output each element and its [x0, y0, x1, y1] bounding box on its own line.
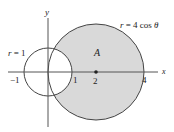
tick-neg1: −1	[10, 75, 20, 85]
tick-1: 1	[73, 75, 78, 85]
y-axis-label: y	[44, 7, 49, 17]
x-axis-label: x	[161, 67, 166, 76]
unit-circle-label: r = 1	[8, 48, 26, 58]
region-a-label: A	[93, 47, 101, 58]
tick-2: 2	[93, 76, 98, 86]
tick-4: 4	[142, 75, 147, 85]
polar-diagram: y x r = 1 r = 4 cos θ A −1 1 2 4	[0, 0, 174, 132]
center-point	[94, 70, 98, 74]
big-circle-label: r = 4 cos θ	[120, 20, 159, 30]
